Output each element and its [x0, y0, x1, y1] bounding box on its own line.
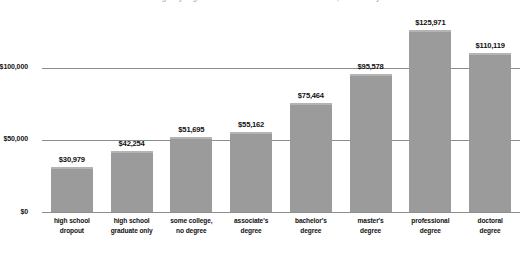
bar-column[interactable]: $110,119 [469, 10, 511, 212]
chart-title: Median annual earnings by highest level … [0, 0, 530, 2]
bar-value-label: $110,119 [455, 41, 525, 50]
x-axis-category-label: doctoraldegree [454, 216, 526, 235]
bar-value-label: $75,464 [276, 91, 346, 100]
bar-column[interactable]: $55,162 [230, 10, 272, 212]
bar[interactable] [350, 74, 392, 212]
bar[interactable] [469, 53, 511, 212]
bar-column[interactable]: $125,971 [409, 10, 451, 212]
bar-chart: Median annual earnings by highest level … [0, 0, 530, 259]
y-axis-tick-label: $50,000 [0, 135, 28, 142]
axis-baseline [42, 212, 520, 213]
y-axis-tick-label: $100,000 [0, 63, 28, 70]
x-axis-category-line: degree [454, 226, 526, 236]
x-axis-labels: high schooldropouthigh schoolgraduate on… [42, 216, 520, 256]
y-axis-tick-label: $0 [0, 208, 28, 215]
bar[interactable] [170, 137, 212, 212]
bar-series: $30,979$42,254$51,695$55,162$75,464$95,5… [42, 10, 520, 212]
bar-value-label: $125,971 [395, 18, 465, 27]
bar-column[interactable]: $30,979 [51, 10, 93, 212]
bar[interactable] [230, 132, 272, 212]
bar[interactable] [51, 167, 93, 212]
bar-value-label: $42,254 [97, 139, 167, 148]
bar[interactable] [290, 103, 332, 212]
bar-value-label: $55,162 [216, 120, 286, 129]
bar-value-label: $30,979 [37, 155, 107, 164]
bar[interactable] [111, 151, 153, 212]
bar-column[interactable]: $95,578 [350, 10, 392, 212]
bar-column[interactable]: $51,695 [170, 10, 212, 212]
bar-column[interactable]: $42,254 [111, 10, 153, 212]
x-axis-category-line: doctoral [454, 216, 526, 226]
bar[interactable] [409, 30, 451, 212]
bar-value-label: $95,578 [336, 62, 406, 71]
bar-column[interactable]: $75,464 [290, 10, 332, 212]
